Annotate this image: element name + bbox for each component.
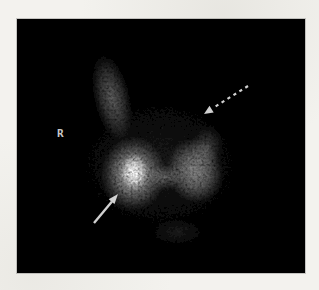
scan-canvas: R xyxy=(17,19,305,273)
orientation-marker-label: R xyxy=(57,127,64,140)
scintigraphy-image: R xyxy=(17,19,305,273)
tracer-uptake-blobs xyxy=(17,19,305,273)
figure-page: { "scan": { "kind": "thyroid-scintigraph… xyxy=(0,0,319,290)
